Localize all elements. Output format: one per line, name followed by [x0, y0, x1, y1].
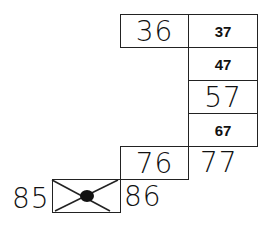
cross-out-marks-icon	[0, 0, 274, 232]
